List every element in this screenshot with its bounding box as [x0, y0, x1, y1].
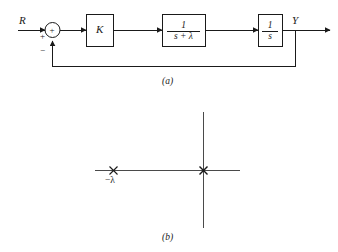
summing-input-sign: + [40, 32, 45, 41]
first-order-lag-block-expression: 1 s + λ [166, 21, 201, 43]
input-label-R: R [19, 15, 26, 26]
gain-block-label: K [96, 24, 103, 35]
integrator-block-expression: 1 s [261, 21, 279, 43]
lag-denominator: s + λ [166, 32, 201, 42]
summing-feedback-sign: − [40, 46, 45, 55]
lag-numerator: 1 [166, 21, 201, 31]
figure-root: R + + − K 1 s + λ 1 s Y (a) −λ (b) [0, 0, 338, 252]
pole-label-minus-lambda: −λ [105, 176, 115, 186]
output-label-Y: Y [292, 15, 298, 26]
integrator-numerator: 1 [261, 21, 279, 31]
pole-zero-plot-group [95, 112, 240, 228]
integrator-denominator: s [261, 32, 279, 42]
summing-junction-inside-sign: + [50, 26, 55, 35]
panel-a-caption: (a) [162, 77, 173, 87]
panel-b-caption: (b) [162, 233, 173, 243]
